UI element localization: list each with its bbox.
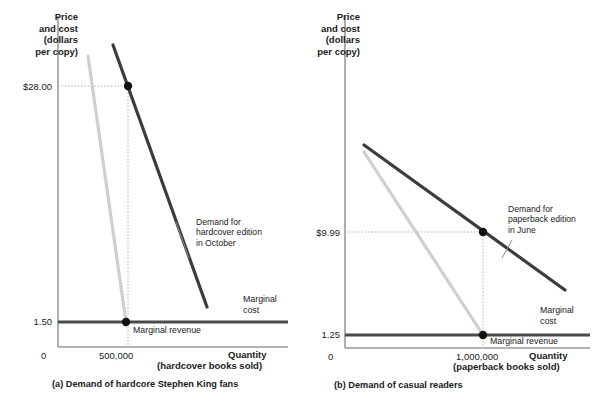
panel-b-ytick-cost: 1.25 [290, 329, 340, 340]
panel-b-equilibrium-dot [479, 228, 487, 236]
panel-a-mr-mc-dot [122, 318, 130, 326]
panel-a-ytick-cost: 1.50 [0, 316, 52, 327]
panel-b-ytick-price: $9.99 [290, 227, 340, 238]
panel-a-demand-curve-label: Demand for hardcover edition in October [196, 217, 292, 248]
panel-b-caption: (b) Demand of casual readers [334, 380, 463, 390]
figure-two-panel-demand-chart: Price and cost (dollars per copy) $28.00… [0, 0, 599, 402]
panel-b-marginal-revenue-curve [364, 152, 483, 335]
panel-b-marginal-cost-label: Marginal cost [540, 305, 592, 326]
panel-a-marginal-revenue-label: Marginal revenue [133, 325, 201, 336]
panel-a-hardcover-chart: Price and cost (dollars per copy) $28.00… [0, 0, 300, 402]
panel-b-x-axis-title: Quantity [529, 350, 568, 362]
panel-a-plot-svg [0, 0, 300, 402]
panel-b-marginal-revenue-label: Marginal revenue [490, 336, 558, 347]
panel-a-x-axis-title: Quantity [228, 349, 267, 361]
panel-a-xtick-quantity: 500,000 [99, 350, 133, 361]
panel-b-mr-mc-dot [479, 331, 487, 339]
panel-a-caption: (a) Demand of hardcore Stephen King fans [52, 379, 238, 389]
panel-b-demand-curve-label: Demand for paperback edition in June [508, 204, 599, 235]
panel-a-marginal-revenue-curve [88, 56, 126, 322]
panel-b-origin-label: 0 [328, 351, 333, 362]
panel-b-x-axis-subtitle: (paperback books sold) [453, 361, 560, 373]
panel-a-x-axis-subtitle: (hardcover books sold) [157, 360, 262, 372]
panel-a-equilibrium-dot [124, 82, 132, 90]
panel-a-demand-leader-line [176, 222, 189, 258]
panel-a-ytick-price: $28.00 [0, 81, 52, 92]
panel-a-y-axis-label: Price and cost (dollars per copy) [8, 11, 78, 57]
panel-b-paperback-chart: Price and cost (dollars per copy) $9.99 … [290, 0, 599, 402]
panel-a-marginal-cost-label: Marginal cost [243, 294, 293, 315]
panel-a-origin-label: 0 [41, 350, 46, 361]
panel-b-y-axis-label: Price and cost (dollars per copy) [292, 11, 360, 57]
